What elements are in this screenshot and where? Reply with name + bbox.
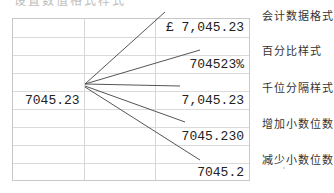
label-percent-style: 百分比样式: [262, 42, 322, 58]
speck: [283, 167, 285, 169]
column-divider: [84, 19, 85, 180]
row-divider: [13, 37, 249, 38]
spreadsheet-grid: 7045.23 £ 7,045.23 704523% 7,045.23 7045…: [12, 18, 250, 181]
thousands-separator-cell[interactable]: 7,045.23: [156, 92, 244, 110]
label-increase-decimal: 增加小数位数: [262, 115, 334, 131]
label-accounting-format: 会计数据格式: [262, 7, 334, 23]
percent-format-cell[interactable]: 704523%: [156, 56, 244, 74]
increase-decimal-cell[interactable]: 7045.230: [156, 128, 244, 146]
decrease-decimal-cell[interactable]: 7045.2: [156, 164, 244, 182]
label-decrease-decimal: 减少小数位数: [262, 151, 334, 167]
source-value-cell[interactable]: 7045.23: [25, 92, 80, 110]
accounting-format-cell[interactable]: £ 7,045.23: [156, 19, 244, 37]
label-thousands-separator: 千位分隔样式: [262, 79, 334, 95]
cropped-heading-text: 设置数值格式样式: [14, 0, 126, 8]
